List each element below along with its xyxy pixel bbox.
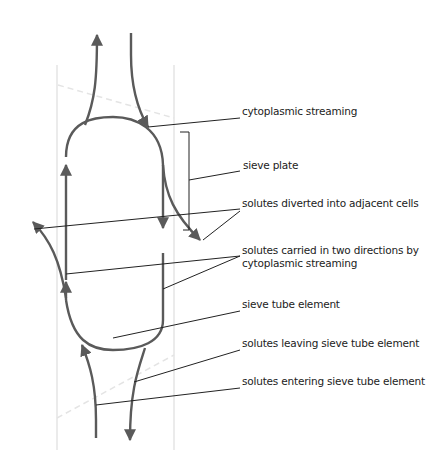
label-solutes-leaving: solutes leaving sieve tube element <box>242 337 419 350</box>
sieve-plate-bracket <box>180 132 189 230</box>
label-cytoplasmic-streaming: cytoplasmic streaming <box>242 105 357 118</box>
label-sieve-plate: sieve plate <box>243 159 298 172</box>
bottom-flow-arrows <box>82 345 145 440</box>
label-solutes-two-directions-line2: cytoplasmic streaming <box>242 257 357 270</box>
diverted-flow-arrows <box>33 165 200 298</box>
label-solutes-two-directions-line1: solutes carried in two directions by <box>242 244 419 257</box>
label-sieve-tube-element: sieve tube element <box>242 298 340 311</box>
sieve-tube-element-outline <box>66 117 163 350</box>
cell-walls <box>57 65 174 450</box>
sieve-tube-diagram <box>0 0 433 463</box>
top-flow-arrows <box>85 33 148 127</box>
label-solutes-diverted: solutes diverted into adjacent cells <box>242 197 419 210</box>
label-solutes-entering: solutes entering sieve tube element <box>242 375 425 388</box>
